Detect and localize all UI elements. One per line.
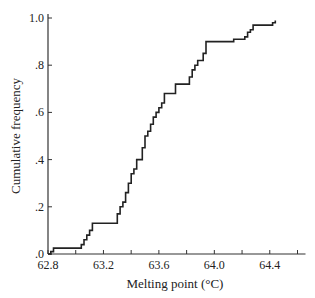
x-tick-label: 63.6 [148,258,169,272]
y-tick-label: .4 [35,153,44,167]
y-tick-label: .8 [35,58,44,72]
x-tick-label: 63.2 [93,258,114,272]
x-tick-label: 64.0 [204,258,225,272]
chart-canvas: 62.863.263.664.064.4.0.2.4.6.81.0 Meltin… [0,0,315,298]
y-tick-label: .2 [35,200,44,214]
x-tick-label: 64.4 [259,258,280,272]
axes: 62.863.263.664.064.4.0.2.4.6.81.0 [29,11,306,272]
y-axis-label: Cumulative frequency [8,78,23,194]
y-tick-label: .0 [35,247,44,261]
cumulative-frequency-chart: 62.863.263.664.064.4.0.2.4.6.81.0 Meltin… [0,0,315,298]
y-tick-label: 1.0 [29,11,44,25]
x-axis-label: Melting point (°C) [127,276,224,291]
y-tick-label: .6 [35,105,44,119]
step-curve [48,20,275,254]
